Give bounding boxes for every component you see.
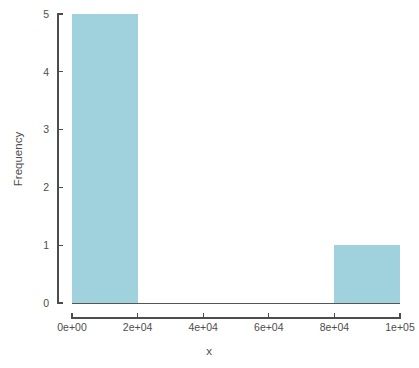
histogram-canvas: 012345 0e+002e+044e+046e+048e+041e+05 x …: [0, 0, 419, 368]
y-axis-tick-label: 0: [43, 297, 49, 309]
x-axis-tick-label: 8e+04: [320, 321, 350, 333]
x-axis-title: x: [206, 345, 212, 357]
plot-background: [0, 0, 419, 368]
histogram-figure: 012345 0e+002e+044e+046e+048e+041e+05 x …: [0, 0, 419, 368]
y-axis-tick-label: 2: [43, 181, 49, 193]
histogram-bar: [334, 245, 400, 303]
x-axis-tick-label: 6e+04: [254, 321, 284, 333]
x-axis-tick-label: 0e+00: [57, 321, 87, 333]
histogram-bar: [72, 14, 138, 303]
x-axis-tick-label: 2e+04: [123, 321, 153, 333]
y-axis-tick-label: 1: [43, 239, 49, 251]
x-axis-tick-label: 1e+05: [385, 321, 415, 333]
y-axis-tick-label: 5: [43, 8, 49, 20]
y-axis-tick-label: 4: [43, 66, 49, 78]
y-axis-tick-label: 3: [43, 123, 49, 135]
x-axis-tick-label: 4e+04: [188, 321, 218, 333]
y-axis-title: Frequency: [12, 132, 24, 187]
